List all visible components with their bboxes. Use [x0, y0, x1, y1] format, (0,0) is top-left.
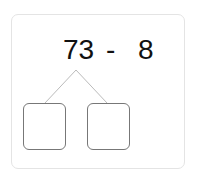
- left-branch-line: [45, 70, 76, 103]
- number-bond-branches: [0, 0, 198, 178]
- answer-box-left[interactable]: [23, 103, 66, 150]
- answer-box-right[interactable]: [87, 103, 130, 150]
- right-branch-line: [76, 70, 107, 103]
